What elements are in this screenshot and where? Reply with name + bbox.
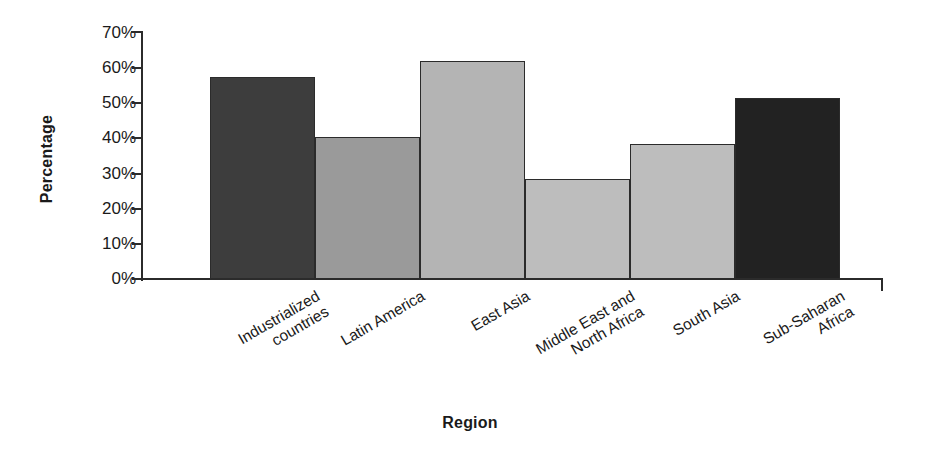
y-axis-tick-label: 70% [74,24,136,41]
x-axis-end-cap [881,278,883,291]
bar[interactable] [630,144,735,279]
x-axis-tick-label: Industrializedcountries [150,287,333,413]
y-axis-tick [132,208,142,210]
bar[interactable] [315,137,420,279]
y-axis-tick-label: 0% [74,270,136,287]
y-axis-tick-label: 20% [74,200,136,217]
y-axis-tick-label: 60% [74,59,136,76]
y-axis-tick [132,67,142,69]
y-axis-tick-label: 10% [74,235,136,252]
y-axis-tick-label: 50% [74,94,136,111]
y-axis-tick [132,243,142,245]
bar[interactable] [735,98,840,279]
y-axis-tick [132,278,142,280]
y-axis-tick [132,102,142,104]
bar[interactable] [525,179,630,279]
bar-chart: Percentage 0%10%20%30%40%50%60%70% Indus… [0,0,940,450]
plot-area [142,33,883,279]
y-axis-top-cap [131,31,142,33]
x-axis-title: Region [0,414,940,432]
y-axis-tick-label: 40% [74,129,136,146]
y-axis-tick-labels: 0%10%20%30%40%50%60%70% [60,0,136,450]
y-axis-title: Percentage [38,79,56,239]
bar[interactable] [420,61,525,279]
y-axis-tick [132,137,142,139]
y-axis-tick [132,173,142,175]
bar[interactable] [210,77,315,279]
y-axis-tick-label: 30% [74,165,136,182]
